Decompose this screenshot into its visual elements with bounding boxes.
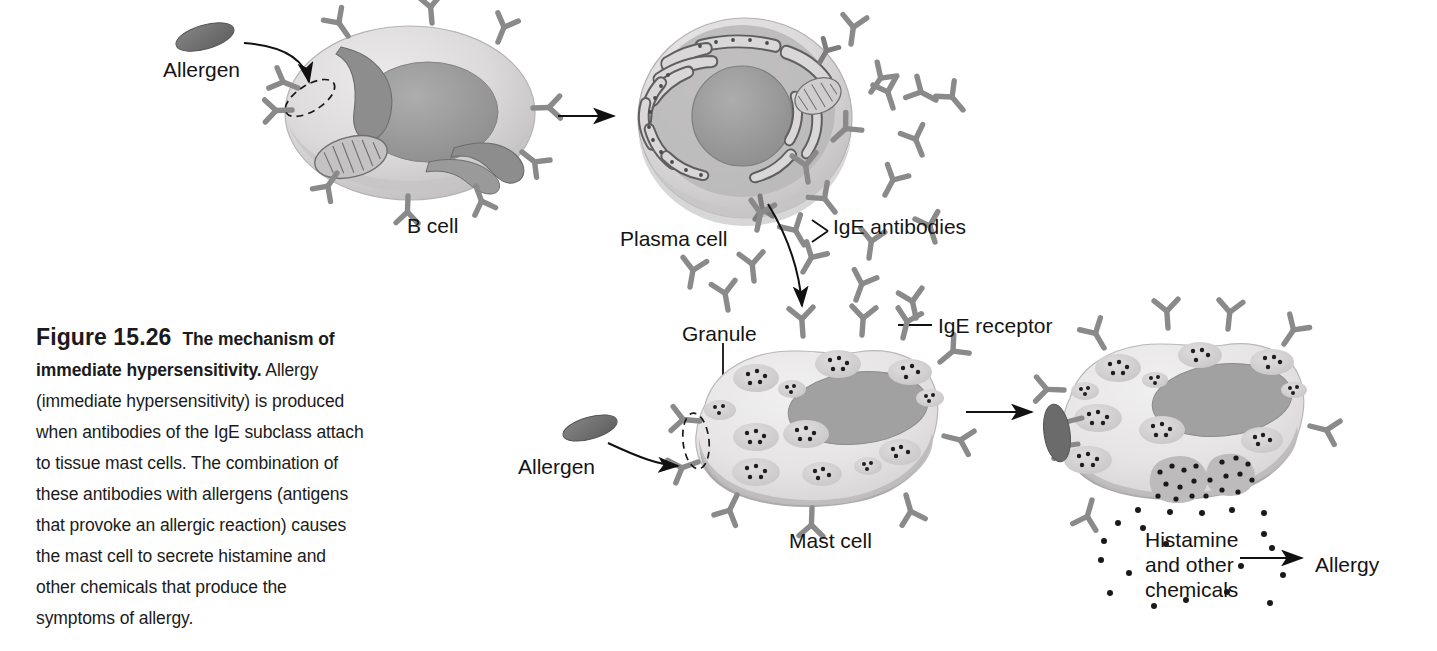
label-histamine: Histamine and other chemicals — [1145, 527, 1270, 602]
label-plasma-cell: Plasma cell — [620, 226, 727, 251]
figure-caption: Figure 15.26The mechanism of immediate h… — [36, 322, 366, 634]
caption-line-4: when antibodies of the IgE subclass atta… — [36, 417, 366, 448]
label-ige-receptor: IgE receptor — [938, 313, 1052, 338]
ige-antibodies-leader — [812, 220, 828, 242]
caption-line-9: other chemicals that produce the — [36, 572, 366, 603]
label-histamine-line-3: chemicals — [1145, 577, 1270, 602]
plasma-cell-group — [638, 18, 852, 226]
caption-line-1: Figure 15.26The mechanism of — [36, 322, 366, 355]
caption-line-3: (immediate hypersensitivity) is produced — [36, 386, 366, 417]
plasma-cell-nucleus — [692, 66, 792, 166]
label-ige-antibodies: IgE antibodies — [833, 214, 966, 239]
figure-container: Allergen B cell Plasma cell IgE antibodi… — [0, 0, 1437, 651]
allergen-bottom-shape — [560, 410, 620, 447]
caption-line-2: immediate hypersensitivity. Allergy — [36, 355, 366, 386]
caption-title-bold: immediate hypersensitivity. — [36, 360, 262, 380]
label-allergen-bottom: Allergen — [518, 454, 595, 479]
figure-number: Figure 15.26 — [36, 324, 171, 350]
label-histamine-line-1: Histamine — [1145, 527, 1270, 552]
caption-line-6: these antibodies with allergens (antigen… — [36, 479, 366, 510]
label-granule: Granule — [682, 321, 757, 346]
label-allergy: Allergy — [1315, 552, 1379, 577]
allergen-top-shape — [173, 17, 237, 57]
caption-line-8: the mast cell to secrete histamine and — [36, 541, 366, 572]
label-b-cell: B cell — [407, 213, 458, 238]
label-histamine-line-2: and other — [1145, 552, 1270, 577]
b-cell-group — [265, 0, 561, 223]
caption-line-5: to tissue mast cells. The combination of — [36, 448, 366, 479]
label-allergen-top: Allergen — [163, 57, 240, 82]
caption-title-part-1: The mechanism of — [182, 329, 334, 349]
caption-line-7: that provoke an allergic reaction) cause… — [36, 510, 366, 541]
label-mast-cell: Mast cell — [789, 528, 872, 553]
caption-body-start: Allergy — [262, 360, 319, 380]
caption-line-10: symptoms of allergy. — [36, 603, 366, 634]
caption-title-part-2: immediate hypersensitivity. Allergy — [36, 360, 318, 380]
